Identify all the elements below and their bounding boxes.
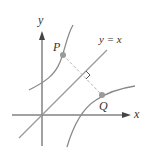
line-label: y = x <box>99 34 122 45</box>
reflection-diagram: y x y = x P Q <box>0 0 153 152</box>
diagram-graphic <box>0 0 153 152</box>
point-p-label: P <box>53 41 60 53</box>
y-axis-arrow-icon <box>39 31 45 40</box>
point-q-label: Q <box>99 100 108 112</box>
y-axis-label: y <box>38 14 43 26</box>
line-y-equals-x <box>19 50 107 138</box>
x-axis-label: x <box>134 108 139 120</box>
point-q <box>99 92 105 98</box>
curve-upper-left <box>29 25 73 90</box>
point-p <box>60 52 66 58</box>
right-angle-icon <box>86 71 90 79</box>
x-axis-arrow-icon <box>122 112 131 118</box>
